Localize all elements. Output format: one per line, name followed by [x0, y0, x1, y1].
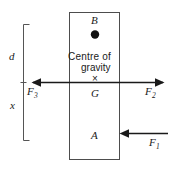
centre-of-gravity-caption-line2: gravity	[81, 63, 110, 73]
force-label-f1-base: F	[149, 136, 156, 148]
point-label-g: G	[91, 88, 99, 99]
force-diagram: d x F3 F2 F1 B G A Centre of gravity ×	[0, 0, 175, 170]
force-label-f2-subscript: 2	[152, 91, 156, 100]
force-label-f1-subscript: 1	[156, 142, 160, 151]
point-label-a: A	[91, 130, 98, 141]
force-label-f3: F3	[27, 86, 37, 97]
point-b-marker	[91, 30, 99, 38]
force-f1-arrowhead	[120, 129, 130, 138]
force-label-f3-base: F	[27, 85, 34, 97]
centre-of-gravity-cross-marker: ×	[92, 74, 98, 84]
dimension-label-d: d	[9, 51, 15, 62]
point-label-b: B	[91, 15, 98, 26]
force-f2-arrowhead	[155, 78, 165, 87]
dimension-bracket	[21, 25, 30, 141]
dimension-label-x: x	[10, 100, 15, 111]
force-label-f2: F2	[145, 86, 155, 97]
centre-of-gravity-caption-line1: Centre of	[68, 52, 111, 62]
force-label-f1: F1	[149, 137, 159, 148]
force-label-f3-subscript: 3	[34, 91, 38, 100]
force-label-f2-base: F	[145, 85, 152, 97]
